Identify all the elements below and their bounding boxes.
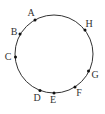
point-dot (19, 33, 22, 36)
point-dot (14, 56, 17, 59)
point-label: E (50, 94, 56, 105)
point-a: A (27, 7, 36, 21)
point-f: F (74, 86, 83, 99)
point-label: H (85, 18, 92, 29)
point-label: C (5, 51, 12, 62)
points-layer: ABCDEFGH (5, 7, 99, 105)
point-label: B (11, 26, 18, 37)
point-dot (34, 19, 37, 22)
point-e: E (50, 92, 56, 106)
point-label: D (33, 92, 40, 103)
circle (15, 15, 93, 93)
circle-diagram: ABCDEFGH (0, 0, 105, 114)
point-g: G (87, 69, 99, 80)
point-h: H (84, 18, 93, 31)
point-dot (87, 70, 90, 73)
point-label: G (91, 69, 98, 80)
point-d: D (33, 89, 41, 103)
point-label: F (76, 87, 82, 98)
point-label: A (27, 7, 35, 18)
